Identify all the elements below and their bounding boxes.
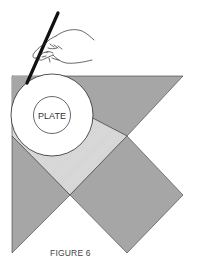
plate-label: PLATE — [38, 111, 66, 121]
plate: PLATE — [11, 74, 93, 156]
figure-caption: FIGURE 6 — [50, 248, 91, 258]
figure-6-diagram: PLATE FIGURE 6 — [0, 0, 200, 270]
